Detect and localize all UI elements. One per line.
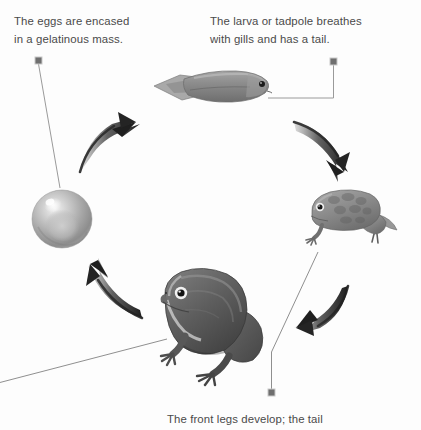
arrow-froglet-to-frog — [294, 286, 348, 336]
frog-life-cycle-diagram: The eggs are encased in a gelatinous mas… — [0, 0, 421, 430]
cycle-arrows-layer — [0, 0, 421, 430]
arrow-egg-to-tadpole — [80, 112, 140, 172]
arrow-frog-to-egg — [86, 258, 142, 318]
arrow-tadpole-to-froglet — [294, 122, 350, 182]
